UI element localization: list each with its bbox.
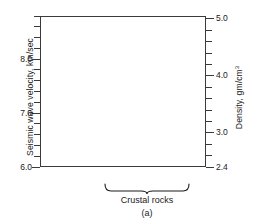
plot-area bbox=[40, 16, 206, 167]
panel-label: (a) bbox=[93, 208, 201, 218]
clipped-caption-text bbox=[10, 0, 210, 9]
right-tick bbox=[206, 18, 214, 19]
right-tick-label: 5.0 bbox=[216, 14, 228, 23]
right-tick bbox=[206, 75, 214, 76]
right-axis-title-exponent: 3 bbox=[234, 66, 240, 69]
crustal-rocks-brace bbox=[104, 183, 190, 194]
right-tick bbox=[206, 87, 212, 88]
figure-panel-a: 6.07.08.02.43.04.05.0 Seismic wave veloc… bbox=[0, 0, 253, 224]
right-tick bbox=[206, 110, 212, 111]
right-tick bbox=[206, 98, 212, 99]
right-tick bbox=[206, 121, 212, 122]
right-axis-title: Density, gm/cm3 bbox=[234, 22, 245, 172]
right-tick-label: 3.0 bbox=[216, 128, 228, 137]
right-tick-label: 2.4 bbox=[216, 163, 228, 172]
right-tick bbox=[206, 53, 212, 54]
left-tick bbox=[34, 16, 40, 17]
right-tick-label: 4.0 bbox=[216, 71, 228, 80]
right-tick bbox=[206, 155, 212, 156]
right-tick bbox=[206, 167, 214, 168]
right-tick bbox=[206, 64, 212, 65]
right-axis-title-text: Density, gm/cm bbox=[234, 69, 244, 129]
right-tick bbox=[206, 41, 212, 42]
right-tick bbox=[206, 30, 212, 31]
right-tick bbox=[206, 132, 214, 133]
right-tick bbox=[206, 144, 212, 145]
left-axis-title: Seismic wave velocity, km/sec bbox=[25, 22, 35, 172]
group-label-crustal-rocks: Crustal rocks bbox=[93, 195, 201, 205]
